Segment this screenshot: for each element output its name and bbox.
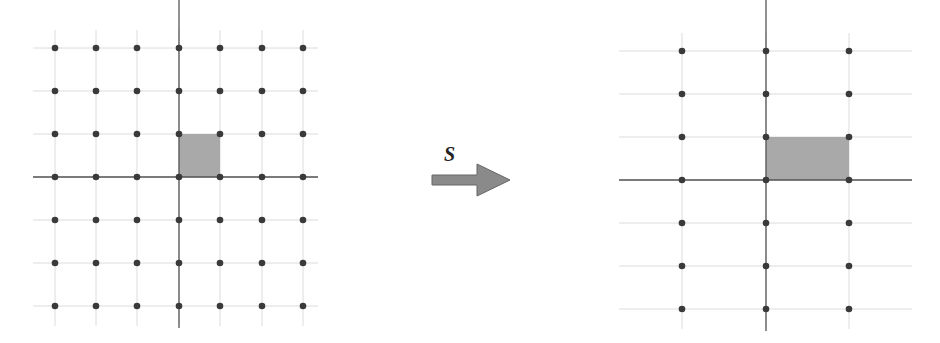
lattice-point [93,217,100,224]
lattice-point [763,220,770,227]
lattice-point [259,217,266,224]
lattice-point [134,303,141,310]
lattice-point [259,260,266,267]
lattice-point [217,45,224,52]
lattice-point [679,91,686,98]
lattice-point [134,45,141,52]
transformed-lattice [619,0,912,331]
lattice-point [300,174,307,181]
lattice-point [300,217,307,224]
lattice-point [134,88,141,95]
lattice-point [259,303,266,310]
lattice-point [52,131,59,138]
lattice-point [134,217,141,224]
transform-arrow-icon [432,164,510,196]
lattice-point [846,220,853,227]
lattice-point [93,174,100,181]
lattice-point [217,260,224,267]
lattice-point [176,174,183,181]
lattice-point [763,134,770,141]
lattice-point [846,177,853,184]
lattice-point [846,306,853,313]
lattice-point [217,217,224,224]
lattice-point [679,134,686,141]
unit-cell [179,134,220,177]
lattice-point [176,45,183,52]
lattice-point [217,174,224,181]
lattice-point [52,88,59,95]
lattice-point [846,134,853,141]
lattice-point [52,217,59,224]
lattice-point [134,174,141,181]
lattice-point [176,303,183,310]
lattice-point [176,88,183,95]
lattice-point [763,306,770,313]
lattice-point [259,131,266,138]
lattice-point [679,220,686,227]
lattice-point [679,306,686,313]
lattice-point [300,88,307,95]
unit-cell [766,137,849,180]
lattice-point [259,174,266,181]
lattice-point [93,45,100,52]
lattice-point [846,91,853,98]
lattice-point [679,263,686,270]
lattice-point [176,131,183,138]
transformation-diagram [0,0,940,343]
lattice-point [300,303,307,310]
lattice-point [259,45,266,52]
lattice-point [846,48,853,55]
lattice-point [300,131,307,138]
original-lattice [33,0,318,328]
lattice-point [763,91,770,98]
lattice-point [300,260,307,267]
lattice-point [300,45,307,52]
lattice-point [93,303,100,310]
lattice-point [134,131,141,138]
lattice-point [52,260,59,267]
lattice-point [217,88,224,95]
lattice-point [134,260,141,267]
lattice-point [52,303,59,310]
lattice-point [763,263,770,270]
lattice-point [259,88,266,95]
lattice-point [93,260,100,267]
lattice-point [52,45,59,52]
lattice-point [93,88,100,95]
lattice-point [679,177,686,184]
lattice-point [52,174,59,181]
lattice-point [176,217,183,224]
lattice-point [763,177,770,184]
lattice-point [217,303,224,310]
lattice-point [176,260,183,267]
transform-label: S [444,143,455,166]
lattice-point [679,48,686,55]
lattice-point [217,131,224,138]
lattice-point [93,131,100,138]
lattice-point [763,48,770,55]
lattice-point [846,263,853,270]
